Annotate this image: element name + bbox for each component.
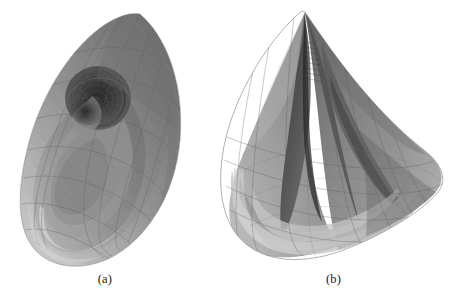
caption-a: (a)	[0, 272, 210, 287]
surface-plot-b	[210, 0, 457, 275]
surface-plot-a	[0, 0, 210, 275]
caption-b: (b)	[210, 272, 457, 287]
figure-panel: (a)	[0, 0, 457, 305]
surface-a-body	[20, 14, 186, 268]
subfigure-b: (b)	[210, 0, 457, 275]
subfigure-a: (a)	[0, 0, 210, 275]
surface-b-body	[224, 12, 446, 260]
